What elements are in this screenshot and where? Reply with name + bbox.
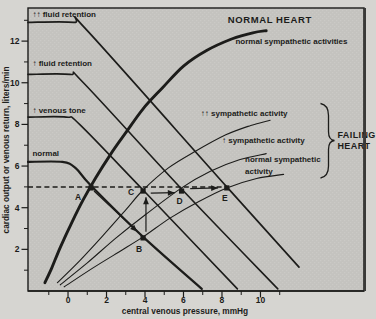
x-tick-label-0: 0 — [66, 295, 71, 305]
label-normal-symp-activities: normal sympathetic activities — [235, 37, 348, 46]
point-label-D: D — [176, 196, 182, 206]
x-tick-label-6: 6 — [181, 295, 186, 305]
cardiac-output-venous-return-chart: ABCDE↑↑ fluid retention↑ fluid retention… — [0, 0, 376, 319]
label-normal-symp-2: activity — [245, 167, 273, 176]
plot-area — [28, 8, 364, 291]
operating-point-A — [89, 185, 94, 190]
point-marker-B — [140, 235, 145, 240]
x-tick-label-8: 8 — [220, 295, 225, 305]
y-tick-label-2: 2 — [15, 244, 20, 254]
label-normal-vr: normal — [32, 149, 59, 158]
x-tick-label-10: 10 — [256, 295, 266, 305]
point-label-E: E — [222, 193, 228, 203]
point-label-A: A — [75, 192, 81, 202]
label-fluid-retention: ↑ fluid retention — [32, 59, 92, 68]
label-failing-1: FAILING — [337, 130, 375, 140]
operating-point-E — [224, 185, 229, 190]
label-normal-symp-1: normal sympathetic — [245, 155, 321, 164]
x-axis-title: central venous pressure, mmHg — [122, 306, 248, 316]
operating-point-D — [179, 188, 184, 193]
label-max-symp: ↑↑ sympathetic activity — [201, 109, 288, 118]
label-normal-heart: NORMAL HEART — [228, 14, 312, 25]
label-venous-tone: ↑ venous tone — [32, 106, 86, 115]
label-inc-symp: ↑ sympathetic activity — [222, 136, 305, 145]
point-marker-C — [140, 188, 145, 193]
operating-point-B — [140, 235, 145, 240]
point-marker-D — [179, 188, 184, 193]
y-axis-title: cardiac output or venous return, liters/… — [1, 67, 11, 234]
label-marked-fluid-retention: ↑↑ fluid retention — [32, 10, 96, 19]
y-tick-label-6: 6 — [15, 161, 20, 171]
point-label-C: C — [128, 187, 134, 197]
point-label-B: B — [136, 244, 142, 254]
x-tick-label-2: 2 — [104, 295, 109, 305]
point-marker-E — [224, 185, 229, 190]
point-marker-A — [89, 185, 94, 190]
y-tick-label-10: 10 — [10, 78, 20, 88]
operating-point-C — [140, 188, 145, 193]
y-tick-label-4: 4 — [15, 203, 20, 213]
y-tick-label-12: 12 — [10, 36, 20, 46]
figure-cardiac-failure-compensation: ABCDE↑↑ fluid retention↑ fluid retention… — [0, 0, 376, 319]
y-tick-label-8: 8 — [15, 119, 20, 129]
x-tick-label-4: 4 — [143, 295, 148, 305]
